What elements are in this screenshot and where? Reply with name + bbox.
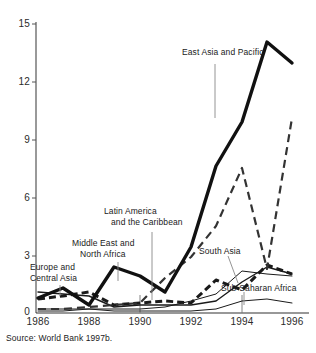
annotation-latin-america-line2: and the Caribbean: [111, 217, 183, 228]
annotation-middle-east-line1: Middle East and: [72, 238, 134, 249]
annotation-south-asia: South Asia: [199, 246, 241, 257]
annotation-europe-line2: Central Asia: [30, 273, 77, 284]
annotation-latin-america-line1: Latin America: [104, 206, 157, 217]
annotation-sub-saharan-africa: Sub-Saharan Africa: [221, 283, 297, 294]
source-note: Source: World Bank 1997b.: [6, 333, 112, 343]
annotation-east-asia-and-pacific: East Asia and Pacific: [182, 47, 263, 58]
annotation-middle-east-line2: North Africa: [80, 249, 126, 260]
plot-area: [0, 0, 316, 353]
annotation-leader-lines: [60, 64, 244, 305]
chart-container: 15 12 9 6 3 0 1986 1988 1990 1992 1994 1…: [0, 0, 316, 353]
annotation-europe-line1: Europe and: [30, 262, 75, 273]
series-line-east-asia-and-pacific: [38, 42, 292, 305]
